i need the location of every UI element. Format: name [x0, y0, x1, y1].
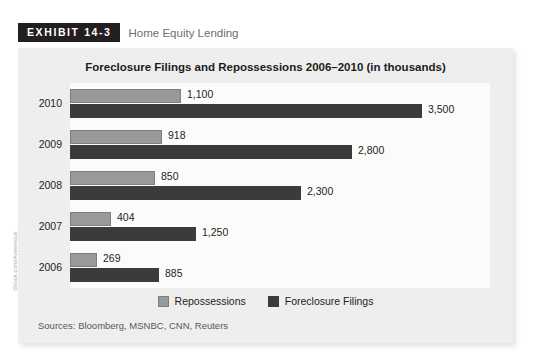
legend-item: Repossessions: [158, 295, 246, 307]
bar-value-label: 2,300: [307, 185, 333, 197]
exhibit-title: Home Equity Lending: [129, 27, 239, 39]
bar-repossessions: [70, 253, 97, 267]
bar-row-year-label: 2008: [24, 179, 62, 191]
bar-value-label: 1,100: [187, 88, 213, 100]
bar-repossessions: [70, 130, 162, 144]
bar-value-label: 1,250: [202, 226, 228, 238]
bar-foreclosure-filings: [70, 227, 196, 241]
photo-credit: iStock.com/Aveemous: [12, 216, 18, 306]
legend-item: Foreclosure Filings: [268, 295, 374, 307]
bar-value-label: 918: [168, 129, 186, 141]
bar-repossessions: [70, 171, 155, 185]
bar-row-year-label: 2006: [24, 261, 62, 273]
bar-foreclosure-filings: [70, 145, 352, 159]
exhibit-badge: EXHIBIT 14-3: [18, 23, 120, 42]
bar-row-year-label: 2010: [24, 97, 62, 109]
bar-repossessions: [70, 89, 181, 103]
bar-value-label: 850: [161, 170, 179, 182]
bar-row: 20099182,800: [70, 129, 490, 163]
bar-value-label: 885: [165, 267, 183, 279]
bar-row-year-label: 2009: [24, 138, 62, 150]
bar-row: 2006269885: [70, 252, 490, 286]
plot-area: 20101,1003,50020099182,80020088502,30020…: [70, 83, 490, 288]
bar-value-label: 2,800: [358, 144, 384, 156]
bar-foreclosure-filings: [70, 186, 301, 200]
exhibit-header: EXHIBIT 14-3 Home Equity Lending: [18, 23, 239, 42]
bar-foreclosure-filings: [70, 104, 422, 118]
bar-repossessions: [70, 212, 111, 226]
legend-label: Foreclosure Filings: [285, 295, 374, 307]
legend-swatch-icon: [268, 296, 279, 307]
bar-value-label: 269: [103, 252, 121, 264]
bar-row: 20088502,300: [70, 170, 490, 204]
legend-swatch-icon: [158, 296, 169, 307]
legend-label: Repossessions: [175, 295, 246, 307]
bar-row-year-label: 2007: [24, 220, 62, 232]
chart-sources: Sources: Bloomberg, MSNBC, CNN, Reuters: [38, 320, 228, 331]
chart-title: Foreclosure Filings and Repossessions 20…: [18, 61, 513, 73]
bar-value-label: 404: [117, 211, 135, 223]
bar-row: 20074041,250: [70, 211, 490, 245]
bar-value-label: 3,500: [428, 103, 454, 115]
bar-foreclosure-filings: [70, 268, 159, 282]
bar-row: 20101,1003,500: [70, 88, 490, 122]
chart-legend: RepossessionsForeclosure Filings: [18, 295, 513, 307]
chart-panel: Foreclosure Filings and Repossessions 20…: [18, 48, 513, 343]
